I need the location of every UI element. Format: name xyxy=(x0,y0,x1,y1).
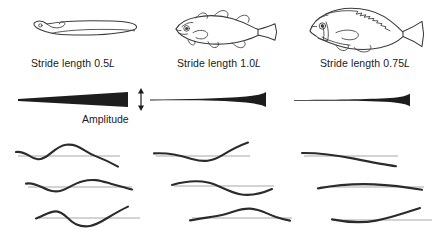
stride-value: 0.75 xyxy=(383,57,404,69)
stride-label-text: Stride length xyxy=(320,57,383,69)
stride-label-text: Stride length xyxy=(177,57,240,69)
stride-label-text: Stride length xyxy=(31,57,94,69)
column-carangiform: Stride length 0.75L xyxy=(292,0,438,236)
wave-trace xyxy=(154,143,248,161)
amplitude-envelope-carangiform xyxy=(292,86,438,114)
stride-value: 1.0 xyxy=(240,57,255,69)
amplitude-label: Amplitude xyxy=(82,113,129,125)
stride-unit: L xyxy=(255,57,261,69)
stride-unit: L xyxy=(404,57,410,69)
cod-illustration xyxy=(146,2,292,56)
body-wave-traces-subcarangiform xyxy=(146,138,292,236)
amplitude-envelope-subcarangiform xyxy=(146,86,292,114)
wave-trace xyxy=(190,209,290,221)
wave-trace xyxy=(26,180,132,191)
column-anguilliform: Stride length 0.5L Amplitude xyxy=(0,0,146,236)
stride-length-label-subcarangiform: Stride length 1.0L xyxy=(146,57,292,69)
eel-illustration xyxy=(0,2,146,56)
amplitude-envelope-anguilliform xyxy=(0,86,146,114)
stride-length-label-anguilliform: Stride length 0.5L xyxy=(0,57,146,69)
perch-illustration xyxy=(292,2,438,56)
column-subcarangiform: Stride length 1.0L xyxy=(146,0,292,236)
stride-unit: L xyxy=(109,57,115,69)
stride-length-label-carangiform: Stride length 0.75L xyxy=(292,57,438,69)
body-wave-traces-carangiform xyxy=(292,138,438,236)
body-wave-traces-anguilliform xyxy=(0,138,146,236)
wave-trace xyxy=(172,181,272,195)
stride-value: 0.5 xyxy=(94,57,109,69)
swimming-modes-figure: Stride length 0.5L Amplitude xyxy=(0,0,439,236)
wave-trace xyxy=(36,207,128,227)
wave-trace xyxy=(302,153,396,166)
